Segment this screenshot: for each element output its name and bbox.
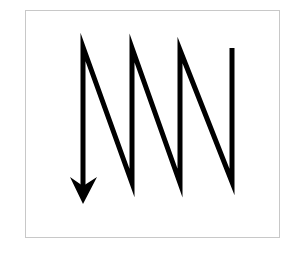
- zigzag-diagram: [0, 0, 292, 253]
- zigzag-line: [83, 47, 232, 190]
